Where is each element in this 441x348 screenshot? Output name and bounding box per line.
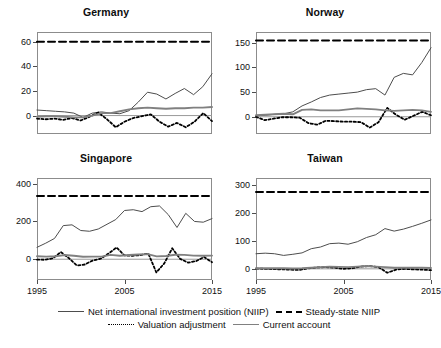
series-solid-thin-singapore: [37, 206, 212, 247]
legend-label-steady-state-niip: Steady-state NIIP: [306, 305, 380, 318]
x-tick-mark-taiwan-0: [256, 280, 257, 284]
legend-row-2: Valuation adjustment Current account: [0, 318, 438, 331]
x-tick-mark-singapore-2: [212, 280, 213, 284]
y-tick-label-singapore-2: 400: [1, 179, 31, 189]
y-tick-mark-taiwan-2: [252, 213, 256, 214]
y-tick-label-singapore-1: 200: [1, 216, 31, 226]
x-tick-label-singapore-1: 2005: [114, 286, 134, 296]
series-solid-thin-taiwan: [256, 220, 431, 255]
y-tick-label-norway-1: 50: [220, 87, 250, 97]
chart-legend: Net international investment position (N…: [0, 305, 438, 331]
y-tick-mark-norway-2: [252, 67, 256, 68]
series-solid-thick-germany: [37, 107, 212, 117]
legend-label-current-account: Current account: [263, 318, 331, 331]
y-tick-mark-germany-1: [33, 91, 37, 92]
plot-area-singapore: [37, 178, 212, 280]
x-tick-label-singapore-2: 2015: [202, 286, 222, 296]
panel-title-germany: Germany: [0, 6, 212, 18]
legend-row-1: Net international investment position (N…: [0, 305, 438, 318]
y-tick-label-singapore-0: 0: [1, 254, 31, 264]
y-tick-mark-norway-0: [252, 117, 256, 118]
legend-item-niip: Net international investment position (N…: [58, 305, 269, 318]
series-solid-thin-germany: [37, 74, 212, 118]
series-layer-germany: [37, 32, 212, 134]
y-tick-label-germany-3: 60: [1, 37, 31, 47]
series-layer-norway: [256, 32, 431, 134]
series-dotted-germany: [37, 112, 212, 127]
y-tick-label-germany-1: 20: [1, 86, 31, 96]
x-tick-mark-singapore-1: [125, 280, 126, 284]
x-tick-mark-taiwan-1: [344, 280, 345, 284]
x-tick-label-taiwan-1: 2005: [333, 286, 353, 296]
y-tick-label-norway-0: 0: [220, 112, 250, 122]
y-tick-mark-taiwan-1: [252, 241, 256, 242]
y-tick-label-taiwan-1: 100: [220, 236, 250, 246]
y-tick-mark-taiwan-0: [252, 269, 256, 270]
y-tick-label-taiwan-2: 200: [220, 208, 250, 218]
series-solid-thick-taiwan: [256, 266, 431, 269]
plot-area-taiwan: [256, 178, 431, 280]
y-tick-mark-germany-2: [33, 66, 37, 67]
y-tick-mark-norway-1: [252, 92, 256, 93]
panel-title-taiwan: Taiwan: [219, 152, 431, 164]
series-dotted-taiwan: [256, 266, 431, 273]
y-tick-mark-germany-0: [33, 116, 37, 117]
x-tick-label-taiwan-0: 1995: [246, 286, 266, 296]
x-tick-label-taiwan-2: 2015: [421, 286, 441, 296]
series-layer-taiwan: [256, 178, 431, 280]
y-tick-mark-singapore-1: [33, 221, 37, 222]
series-solid-thick-norway: [256, 108, 431, 115]
legend-item-steady-state-niip: Steady-state NIIP: [276, 305, 380, 318]
legend-label-valuation-adjustment: Valuation adjustment: [138, 318, 226, 331]
panel-title-singapore: Singapore: [0, 152, 212, 164]
plot-area-germany: [37, 32, 212, 134]
series-solid-thick-singapore: [37, 254, 212, 257]
legend-label-niip: Net international investment position (N…: [88, 305, 269, 318]
y-tick-label-taiwan-0: 0: [220, 264, 250, 274]
plot-area-norway: [256, 32, 431, 134]
x-tick-mark-taiwan-2: [431, 280, 432, 284]
y-tick-mark-taiwan-3: [252, 185, 256, 186]
y-tick-label-germany-0: 0: [1, 111, 31, 121]
series-layer-singapore: [37, 178, 212, 280]
y-tick-mark-norway-3: [252, 43, 256, 44]
x-tick-label-singapore-0: 1995: [27, 286, 47, 296]
series-dotted-singapore: [37, 248, 212, 273]
y-tick-mark-germany-3: [33, 42, 37, 43]
y-tick-mark-singapore-2: [33, 184, 37, 185]
panel-title-norway: Norway: [219, 6, 431, 18]
series-dotted-norway: [256, 108, 431, 128]
legend-item-valuation-adjustment: Valuation adjustment: [108, 318, 226, 331]
y-tick-mark-singapore-0: [33, 259, 37, 260]
y-tick-label-norway-2: 100: [220, 62, 250, 72]
y-tick-label-norway-3: 150: [220, 38, 250, 48]
y-tick-label-taiwan-3: 300: [220, 180, 250, 190]
legend-item-current-account: Current account: [233, 318, 331, 331]
y-tick-label-germany-2: 40: [1, 61, 31, 71]
series-solid-thin-norway: [256, 48, 431, 116]
x-tick-mark-singapore-0: [37, 280, 38, 284]
